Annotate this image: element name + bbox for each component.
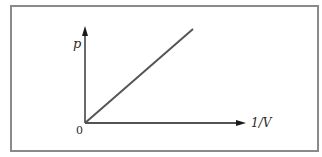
origin-label: 0 [76,124,83,137]
y-axis-label: p [73,36,82,51]
x-axis-arrow-icon [236,120,246,126]
pressure-volume-graph: p 0 1/V [0,0,322,157]
x-axis-label: 1/V [251,116,273,130]
y-axis-arrow-icon [82,26,88,36]
proportional-line [85,29,193,123]
